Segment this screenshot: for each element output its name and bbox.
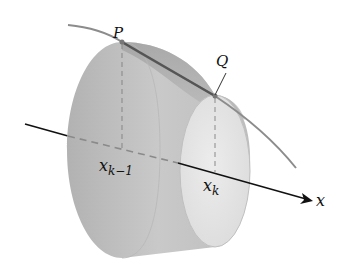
- label-point-q: Q: [216, 52, 228, 70]
- label-x-axis: x: [316, 191, 325, 210]
- label-x-k-minus-1-base: x: [99, 156, 108, 175]
- solid-of-revolution-diagram: P Q xk−1 xk x: [0, 0, 344, 276]
- label-x-k-subscript: k: [212, 184, 219, 198]
- label-point-p: P: [112, 24, 124, 42]
- label-x-k-base: x: [203, 176, 212, 195]
- x-axis-left-segment: [25, 124, 68, 136]
- label-x-k-minus-1-subscript: k−1: [108, 164, 133, 178]
- q-leader-line: [215, 73, 226, 95]
